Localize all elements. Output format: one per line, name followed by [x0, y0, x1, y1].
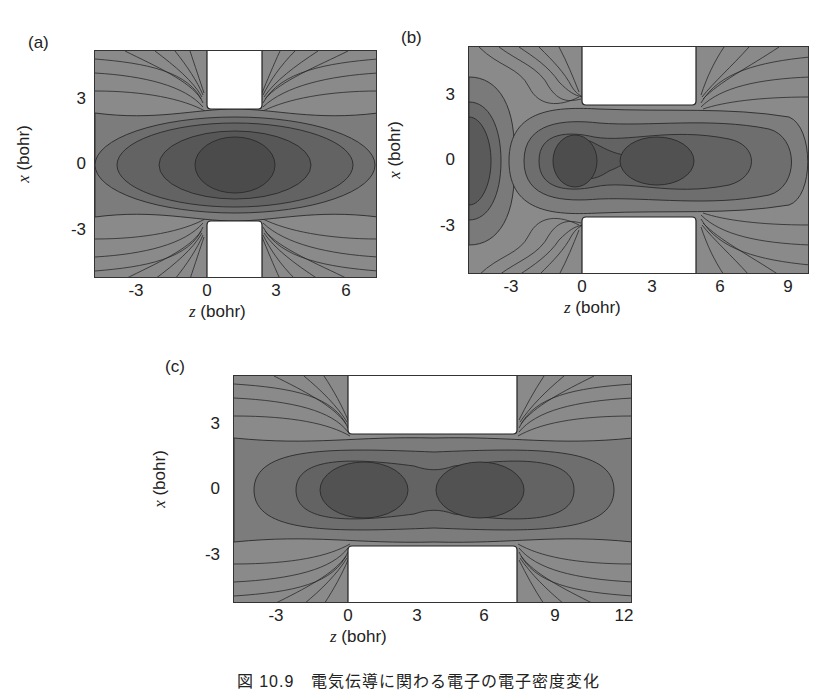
xtick-a-6: 6	[331, 281, 361, 301]
contour-plot-c	[233, 375, 632, 603]
ylabel-c: x (bohr)	[150, 450, 170, 508]
panel-label-c: (c)	[165, 357, 185, 377]
xlabel-a: z (bohr)	[189, 302, 246, 322]
ytick-b-0: 0	[425, 150, 455, 170]
contour-svg-c	[234, 376, 632, 603]
xtick-a-3: 3	[261, 281, 291, 301]
ylabel-a: x (bohr)	[14, 125, 34, 183]
contour-svg-b	[469, 47, 809, 274]
xtick-b-6: 6	[705, 277, 735, 297]
ytick-c-3: 3	[190, 414, 220, 434]
ytick-a-3: 3	[56, 89, 86, 109]
ytick-b-3: 3	[425, 85, 455, 105]
xtick-a-neg3: -3	[121, 281, 151, 301]
xtick-c-6: 6	[469, 606, 499, 626]
xtick-a-0: 0	[192, 281, 222, 301]
panel-label-b: (b)	[401, 28, 422, 48]
xtick-b-neg3: -3	[496, 277, 526, 297]
xtick-c-12: 12	[609, 606, 639, 626]
figure-caption: 図 10.9 電気伝導に関わる電子の電子密度変化	[0, 668, 837, 692]
xtick-b-3: 3	[637, 277, 667, 297]
panel-label-a: (a)	[28, 33, 49, 53]
contour-plot-b	[468, 46, 809, 274]
ytick-b-neg3: -3	[425, 216, 455, 236]
xtick-b-0: 0	[567, 277, 597, 297]
xlabel-b: z (bohr)	[564, 298, 621, 318]
xtick-b-9: 9	[773, 277, 803, 297]
contour-svg-a	[95, 51, 377, 278]
contour-plot-a	[94, 50, 377, 278]
ytick-c-0: 0	[190, 479, 220, 499]
ytick-c-neg3: -3	[190, 545, 220, 565]
ytick-a-neg3: -3	[56, 220, 86, 240]
xtick-c-0: 0	[333, 606, 363, 626]
xtick-c-neg3: -3	[261, 606, 291, 626]
ytick-a-0: 0	[56, 154, 86, 174]
xlabel-c: z (bohr)	[330, 627, 387, 647]
xtick-c-3: 3	[402, 606, 432, 626]
xtick-c-9: 9	[540, 606, 570, 626]
ylabel-b: x (bohr)	[385, 121, 405, 179]
